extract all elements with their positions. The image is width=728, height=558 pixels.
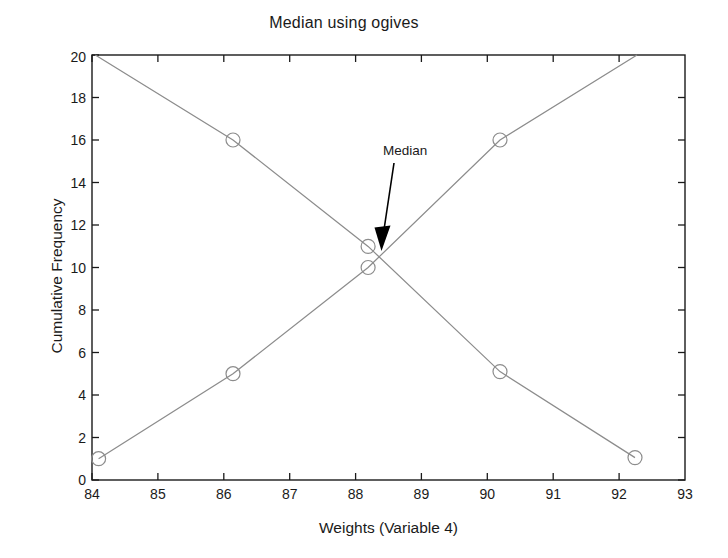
axes-box xyxy=(92,55,685,480)
series-ascending-ogive xyxy=(92,55,637,466)
ytick-label: 20 xyxy=(70,49,86,65)
ytick-label: 6 xyxy=(78,345,86,361)
x-axis-title: Weights (Variable 4) xyxy=(92,519,685,537)
ascending-ogive-line xyxy=(99,55,637,459)
xtick-label: 91 xyxy=(545,486,561,502)
median-annotation-arrow xyxy=(375,163,395,251)
descending-ogive-line xyxy=(95,55,635,458)
xtick-label: 84 xyxy=(84,486,100,502)
plot-canvas xyxy=(0,0,728,558)
xtick-label: 92 xyxy=(611,486,627,502)
ytick-label: 16 xyxy=(70,132,86,148)
ytick-label: 2 xyxy=(78,430,86,446)
ytick-label: 4 xyxy=(78,387,86,403)
ytick-label: 10 xyxy=(70,260,86,276)
xtick-label: 87 xyxy=(282,486,298,502)
y-axis-title: Cumulative Frequency xyxy=(48,126,66,426)
xtick-label: 88 xyxy=(348,486,364,502)
ytick-label: 8 xyxy=(78,302,86,318)
xtick-label: 93 xyxy=(677,486,693,502)
xtick-label: 89 xyxy=(414,486,430,502)
median-annotation-label: Median xyxy=(383,143,427,158)
x-axis-ticks xyxy=(92,55,619,480)
ytick-label: 14 xyxy=(70,175,86,191)
plot-frame xyxy=(92,55,685,480)
xtick-label: 90 xyxy=(480,486,496,502)
series-descending-ogive xyxy=(95,55,642,465)
ytick-label: 12 xyxy=(70,217,86,233)
annotation-arrow-shaft xyxy=(384,163,395,233)
annotation-arrow-head xyxy=(375,226,391,252)
xtick-label: 85 xyxy=(150,486,166,502)
chart-figure: Median using ogives xyxy=(0,0,728,558)
y-axis-ticks xyxy=(92,55,685,480)
xtick-label: 86 xyxy=(216,486,232,502)
ytick-label: 18 xyxy=(70,90,86,106)
